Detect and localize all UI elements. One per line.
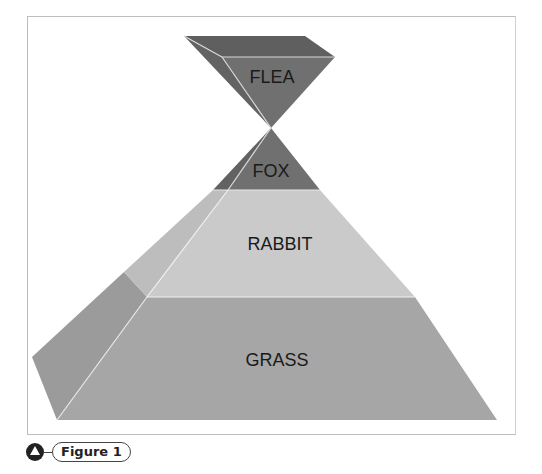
caption-connector xyxy=(44,452,52,453)
figure-label: Figure 1 xyxy=(52,442,131,462)
level-label-fox: FOX xyxy=(252,161,289,181)
triangle-in-circle-icon xyxy=(26,443,44,461)
pyramid-diagram: GRASS RABBIT FOX FLEA xyxy=(0,0,542,474)
level-label-flea: FLEA xyxy=(249,67,294,87)
level-rabbit: RABBIT xyxy=(124,190,415,297)
level-label-grass: GRASS xyxy=(245,350,308,370)
level-label-rabbit: RABBIT xyxy=(247,234,312,254)
level-flea: FLEA xyxy=(184,36,335,128)
level-fox: FOX xyxy=(213,128,320,190)
figure-caption: Figure 1 xyxy=(26,442,131,462)
